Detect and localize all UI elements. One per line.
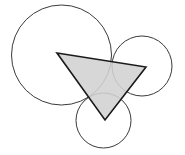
geometric-figure <box>0 0 185 155</box>
